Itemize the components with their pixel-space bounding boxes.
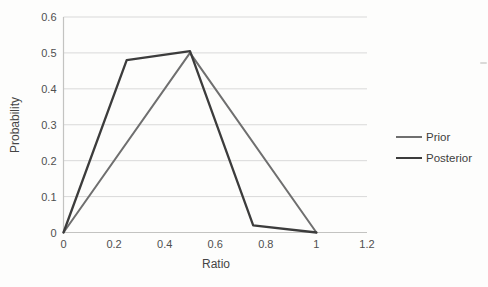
legend: Prior Posterior — [396, 130, 472, 165]
y-tick-label: 0.4 — [41, 83, 56, 95]
posterior-line-swatch — [396, 157, 422, 159]
y-tick-label: 0 — [50, 227, 56, 239]
legend-item-posterior: Posterior — [396, 151, 472, 165]
x-tick-label: 0 — [60, 238, 66, 250]
x-tick-label: 0.4 — [157, 238, 172, 250]
legend-label-posterior: Posterior — [426, 151, 472, 165]
y-tick-label: 0.6 — [41, 11, 56, 23]
series-line-prior — [64, 53, 317, 233]
y-tick-label: 0.2 — [41, 155, 56, 167]
y-tick-label: 0.3 — [41, 119, 56, 131]
x-tick-label: 1.2 — [359, 238, 374, 250]
x-tick-label: 1 — [313, 238, 319, 250]
y-axis-title: Probability — [8, 97, 22, 153]
x-tick-label: 0.6 — [208, 238, 223, 250]
series-line-posterior — [64, 51, 317, 232]
y-tick-label: 0.5 — [41, 47, 56, 59]
x-axis-title: Ratio — [202, 257, 230, 271]
scan-speck-artifact — [480, 62, 487, 64]
prior-line-swatch — [396, 136, 422, 138]
legend-item-prior: Prior — [396, 130, 472, 144]
x-tick-label: 0.8 — [258, 238, 273, 250]
y-tick-label: 0.1 — [41, 191, 56, 203]
legend-label-prior: Prior — [426, 130, 450, 144]
x-tick-label: 0.2 — [106, 238, 121, 250]
line-chart: 00.20.40.60.811.200.10.20.30.40.50.6 Pro… — [0, 0, 488, 287]
